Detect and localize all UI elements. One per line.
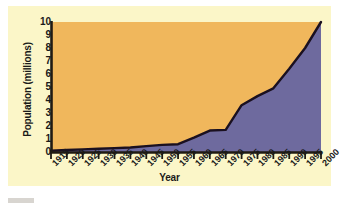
y-axis-title: Population (millions) xyxy=(22,30,33,150)
x-tick-labels: 1915192019251930193519401945195019551960… xyxy=(8,6,331,186)
x-tick-label: 2000 xyxy=(320,147,341,168)
x-axis-title: Year xyxy=(8,172,331,183)
chart-panel: 012345678910 191519201925193019351940194… xyxy=(8,6,331,186)
footer-bar xyxy=(8,198,34,203)
